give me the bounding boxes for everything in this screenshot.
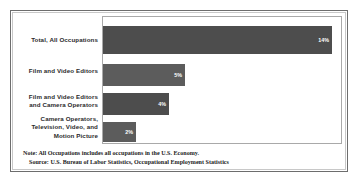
bar-value-label: 2%	[125, 129, 133, 135]
chart-figure: Total, All Occupations Film and Video Ed…	[0, 0, 359, 182]
plot-area: 14% 5% 4% 2%	[102, 16, 342, 144]
category-label-line: and Camera Operators	[29, 101, 98, 109]
category-label-total-all-occupations: Total, All Occupations	[31, 36, 98, 44]
bar-value-label: 14%	[318, 37, 329, 43]
chart-body: Total, All Occupations Film and Video Ed…	[14, 14, 346, 145]
category-labels-column: Total, All Occupations Film and Video Ed…	[14, 14, 102, 145]
category-label-line: Motion Picture	[31, 132, 98, 140]
category-label-line: Camera Operators,	[31, 115, 98, 123]
bar-film-and-video-editors[interactable]: 5%	[103, 64, 185, 86]
footnote-note: Note: All Occupations includes all occup…	[23, 149, 339, 158]
bar-value-label: 5%	[174, 72, 182, 78]
category-label-line: Film and Video Editors	[29, 67, 98, 75]
bar-camera-operators-television-video-motion-picture[interactable]: 2%	[103, 122, 136, 142]
category-label-line: Television, Video, and	[31, 123, 98, 131]
footnote-block: Note: All Occupations includes all occup…	[23, 149, 339, 166]
footnote-source: Source: U.S. Bureau of Labor Statistics,…	[23, 158, 339, 167]
category-label-film-and-video-editors-and-camera-operators: Film and Video Editors and Camera Operat…	[29, 93, 98, 110]
category-label-film-and-video-editors: Film and Video Editors	[29, 67, 98, 75]
category-label-camera-operators-television-video-motion-picture: Camera Operators, Television, Video, and…	[31, 115, 98, 140]
bar-film-and-video-editors-and-camera-operators[interactable]: 4%	[103, 93, 169, 115]
category-label-line: Total, All Occupations	[31, 36, 98, 44]
category-label-line: Film and Video Editors	[29, 93, 98, 101]
chart-outer-frame: Total, All Occupations Film and Video Ed…	[10, 10, 348, 172]
bar-value-label: 4%	[158, 101, 166, 107]
bar-total-all-occupations[interactable]: 14%	[103, 26, 332, 54]
